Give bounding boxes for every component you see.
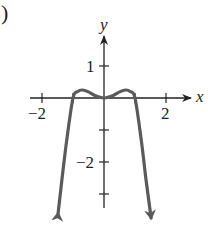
- x-tick-label-2: 2: [161, 105, 170, 122]
- x-tick-label-neg2: −2: [28, 105, 46, 122]
- y-tick-label-neg2: −2: [76, 154, 94, 171]
- y-tick-label-1: 1: [86, 58, 95, 75]
- y-axis-label: y: [100, 16, 108, 33]
- part-label-fragment: ): [1, 2, 8, 24]
- x-axis-label: x: [196, 88, 204, 105]
- graph: ) y x 1 −2 −2 2: [0, 0, 208, 226]
